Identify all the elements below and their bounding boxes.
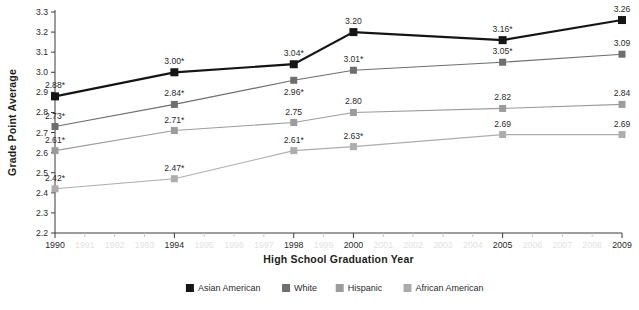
legend-swatch — [336, 284, 344, 292]
data-point-label: 2.88* — [45, 80, 66, 90]
data-point-label: 3.26 — [614, 4, 631, 14]
data-point-marker — [499, 59, 506, 66]
series-african-american: 2.42*2.47*2.61*2.63*2.692.69 — [45, 119, 631, 193]
data-point-label: 2.73* — [45, 111, 66, 121]
y-axis-title: Grade Point Average — [6, 69, 18, 176]
y-tick-label: 3.3 — [36, 7, 48, 17]
data-point-marker — [499, 131, 506, 138]
x-axis-title: High School Graduation Year — [263, 253, 413, 265]
x-tick-label: 2004 — [463, 240, 483, 250]
x-tick-label: 2001 — [373, 240, 393, 250]
data-point-label: 2.84* — [164, 88, 185, 98]
data-point-label: 2.42* — [45, 173, 66, 183]
data-point-marker — [52, 185, 59, 192]
data-point-label: 3.20 — [345, 16, 362, 26]
x-tick-label: 1993 — [135, 240, 155, 250]
series-hispanic: 2.61*2.71*2.752.802.822.84 — [45, 88, 631, 154]
legend-item[interactable]: Asian American — [186, 283, 261, 293]
legend-item[interactable]: Hispanic — [336, 283, 383, 293]
series-line — [55, 104, 622, 150]
data-point-marker — [349, 28, 357, 36]
x-tick-label: 2008 — [582, 240, 602, 250]
y-tick-label: 3.2 — [36, 27, 48, 37]
y-tick-label: 2.2 — [36, 228, 48, 238]
data-point-label: 2.69 — [494, 119, 511, 129]
data-point-marker — [499, 105, 506, 112]
x-tick-label: 1991 — [75, 240, 95, 250]
x-tick-label: 2009 — [612, 240, 632, 250]
data-point-label: 2.61* — [284, 135, 305, 145]
y-tick-label: 2.3 — [36, 208, 48, 218]
data-point-marker — [619, 131, 626, 138]
legend-label: Hispanic — [348, 283, 383, 293]
data-point-label: 2.47* — [164, 163, 185, 173]
x-tick-label: 1992 — [105, 240, 125, 250]
x-tick-label: 2007 — [553, 240, 573, 250]
x-tick-label: 1995 — [194, 240, 214, 250]
series-line — [55, 135, 622, 189]
x-tick-label: 2003 — [433, 240, 453, 250]
legend-label: Asian American — [198, 283, 261, 293]
series-line — [55, 54, 622, 126]
series-line — [55, 20, 622, 96]
data-point-marker — [290, 77, 297, 84]
data-point-label: 2.82 — [494, 92, 511, 102]
data-point-label: 2.71* — [164, 115, 185, 125]
x-tick-label: 1994 — [165, 240, 185, 250]
data-point-marker — [171, 101, 178, 108]
data-point-label: 2.61* — [45, 135, 66, 145]
data-point-marker — [290, 147, 297, 154]
data-point-label: 2.63* — [343, 131, 364, 141]
data-point-marker — [52, 123, 59, 130]
data-point-marker — [290, 60, 298, 68]
y-tick-label: 2.6 — [36, 148, 48, 158]
legend-label: African American — [415, 283, 483, 293]
x-tick-label: 1999 — [314, 240, 334, 250]
x-tick-label: 1996 — [224, 240, 244, 250]
x-tick-label: 1997 — [254, 240, 274, 250]
series-white: 2.73*2.84*2.96*3.01*3.05*3.09 — [45, 38, 631, 130]
x-tick-label: 1998 — [284, 240, 304, 250]
data-point-label: 3.04* — [284, 48, 305, 58]
data-point-label: 3.16* — [493, 24, 514, 34]
data-point-label: 2.75 — [285, 107, 302, 117]
data-point-marker — [499, 36, 507, 44]
series-asian-american: 2.88*3.00*3.04*3.203.16*3.26 — [45, 4, 631, 100]
data-point-marker — [618, 16, 626, 24]
data-point-label: 2.80 — [345, 96, 362, 106]
y-tick-label: 3.1 — [36, 47, 48, 57]
x-tick-label: 2005 — [493, 240, 513, 250]
data-point-label: 2.69 — [614, 119, 631, 129]
data-point-label: 3.00* — [164, 56, 185, 66]
data-point-marker — [619, 101, 626, 108]
chart-canvas: 2.22.32.42.52.62.72.82.93.03.13.23.31990… — [0, 0, 639, 310]
data-point-label: 3.01* — [343, 54, 364, 64]
data-point-label: 2.96* — [284, 87, 305, 97]
data-point-marker — [52, 147, 59, 154]
data-point-label: 3.09 — [614, 38, 631, 48]
legend-swatch — [403, 284, 411, 292]
x-tick-label: 2000 — [344, 240, 364, 250]
legend-item[interactable]: African American — [403, 283, 483, 293]
y-tick-label: 2.4 — [36, 188, 48, 198]
x-tick-label: 2006 — [523, 240, 543, 250]
data-point-label: 3.05* — [493, 46, 514, 56]
legend-swatch — [186, 284, 194, 292]
y-tick-label: 3.0 — [36, 67, 48, 77]
data-point-marker — [170, 68, 178, 76]
data-point-marker — [290, 119, 297, 126]
data-point-marker — [171, 175, 178, 182]
line-chart: 2.22.32.42.52.62.72.82.93.03.13.23.31990… — [0, 0, 639, 310]
legend-swatch — [282, 284, 290, 292]
legend-label: White — [294, 283, 317, 293]
x-tick-label: 1990 — [45, 240, 65, 250]
legend-item[interactable]: White — [282, 283, 317, 293]
data-point-marker — [350, 67, 357, 74]
data-point-marker — [619, 51, 626, 58]
data-point-marker — [350, 143, 357, 150]
x-tick-label: 2002 — [403, 240, 423, 250]
data-point-label: 2.84 — [614, 88, 631, 98]
data-point-marker — [51, 92, 59, 100]
data-point-marker — [171, 127, 178, 134]
data-point-marker — [350, 109, 357, 116]
